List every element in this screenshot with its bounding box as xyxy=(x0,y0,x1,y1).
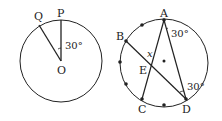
label-O: O xyxy=(57,64,66,77)
label-angle-D: 30° xyxy=(187,81,205,92)
point-C xyxy=(140,97,144,101)
geometry-figures: Q P O 30° A B C D E x 30° 30° xyxy=(0,0,222,121)
label-A: A xyxy=(159,7,169,20)
label-B: B xyxy=(116,30,124,43)
label-P: P xyxy=(57,7,65,20)
point-arc-4 xyxy=(162,103,166,107)
label-angle-A: 30° xyxy=(171,28,189,39)
label-E: E xyxy=(139,64,147,77)
right-figure: A B C D E x 30° 30° xyxy=(116,7,208,116)
left-figure: Q P O 30° xyxy=(20,7,102,102)
radius-OQ xyxy=(39,25,61,61)
point-arc-1 xyxy=(140,23,144,27)
point-D xyxy=(184,97,188,101)
label-x: x xyxy=(147,48,153,59)
center-point xyxy=(163,60,166,63)
point-B xyxy=(124,39,128,43)
label-Q: Q xyxy=(34,10,43,23)
label-D: D xyxy=(182,103,191,116)
right-circle xyxy=(120,19,208,107)
point-arc-2 xyxy=(118,60,122,64)
label-C: C xyxy=(138,103,146,116)
label-angle: 30° xyxy=(65,40,83,51)
point-arc-3 xyxy=(124,82,128,86)
